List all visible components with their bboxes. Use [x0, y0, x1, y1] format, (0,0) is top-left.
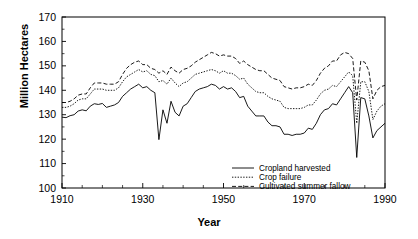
y-tick-label: 110	[39, 157, 56, 169]
x-tick-label: 1990	[373, 193, 397, 205]
x-tick-label: 1970	[293, 193, 317, 205]
y-tick-label: 170	[38, 11, 56, 23]
line-chart-plot: 100110120130140150160170 191019301950197…	[0, 0, 418, 239]
y-tick-labels: 100110120130140150160170	[38, 11, 56, 194]
y-tick-label: 140	[38, 84, 56, 96]
series-line-dotted	[62, 70, 385, 124]
chart-figure: Million Hectares Year 100110120130140150…	[0, 0, 418, 239]
x-tick-label: 1950	[212, 193, 236, 205]
legend-label: Cropland harvested	[259, 164, 331, 173]
y-tick-label: 120	[38, 133, 56, 145]
y-tick-label: 160	[38, 35, 56, 47]
legend-label: Cultivated summer fallow	[259, 182, 351, 191]
series-line-dashed	[62, 52, 385, 102]
chart-legend: Cropland harvestedCrop failureCultivated…	[232, 164, 351, 191]
y-tick-label: 100	[38, 182, 56, 194]
x-tick-label: 1930	[131, 193, 155, 205]
axis-ticks	[62, 17, 385, 188]
x-tick-labels: 19101930195019701990	[50, 193, 397, 205]
y-tick-label: 130	[38, 108, 56, 120]
data-series-group	[62, 52, 385, 157]
y-tick-label: 150	[38, 59, 56, 71]
plot-frame	[62, 17, 385, 188]
series-line-solid	[62, 84, 385, 157]
legend-label: Crop failure	[259, 173, 302, 182]
x-tick-label: 1910	[50, 193, 74, 205]
